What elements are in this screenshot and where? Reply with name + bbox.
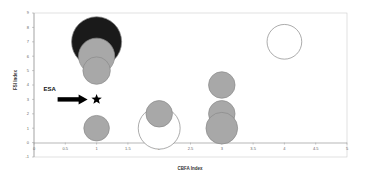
- y-ticks: -10123456789: [25, 10, 34, 159]
- y-tick-label: 4: [27, 82, 30, 87]
- bubble-chart: 00.511.522.533.544.55 -10123456789 ESA C…: [0, 0, 365, 174]
- y-tick-label: 1: [27, 126, 30, 131]
- bubble-point: [206, 112, 238, 144]
- y-tick-label: 9: [27, 10, 30, 15]
- y-tick-label: -1: [25, 154, 29, 159]
- bubble-point: [267, 24, 302, 59]
- y-tick-label: 2: [27, 111, 30, 116]
- bubble-point: [84, 115, 110, 141]
- y-tick-label: 0: [27, 140, 30, 145]
- bubble-point: [146, 101, 173, 128]
- x-axis-title: CBFA Index: [177, 166, 203, 171]
- y-axis-title: FSI Index: [13, 70, 18, 91]
- arrow-shaft: [58, 97, 80, 101]
- x-tick-label: 1.5: [125, 146, 131, 151]
- x-tick-label: 2.5: [188, 146, 194, 151]
- x-tick-label: 5: [346, 146, 349, 151]
- x-tick-label: 3.5: [250, 146, 256, 151]
- y-tick-label: 7: [27, 39, 30, 44]
- y-tick-label: 8: [27, 25, 30, 30]
- y-tick-label: 6: [27, 54, 30, 59]
- bubble-point: [209, 72, 236, 99]
- x-tick-label: 4.5: [313, 146, 319, 151]
- y-tick-label: 3: [27, 97, 30, 102]
- x-tick-label: 0.5: [63, 146, 69, 151]
- annotation-label: ESA: [44, 86, 57, 92]
- y-tick-label: 5: [27, 68, 30, 73]
- bubble-point: [83, 57, 110, 84]
